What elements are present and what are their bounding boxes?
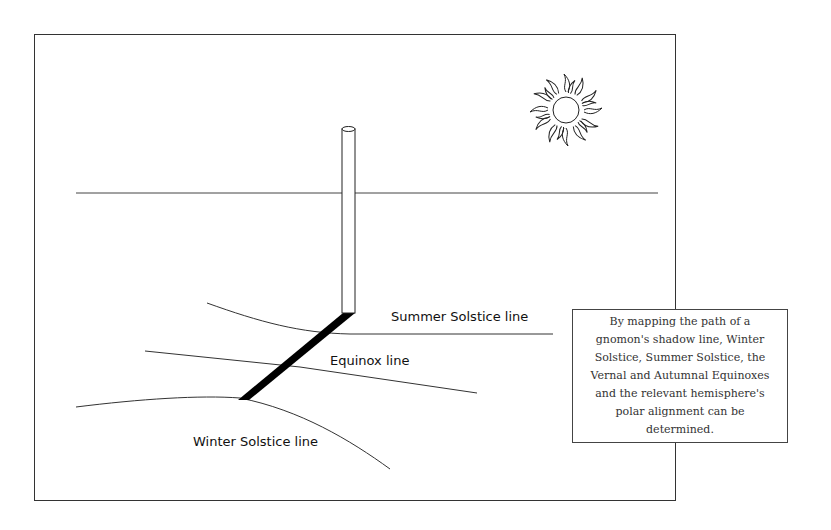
winter-solstice-label: Winter Solstice line [193, 434, 318, 449]
diagram-scene [0, 0, 831, 530]
sun-icon [530, 74, 602, 146]
summer-solstice-label: Summer Solstice line [391, 309, 528, 324]
explanation-note: By mapping the path of a gnomon's shadow… [572, 309, 788, 443]
gnomon [342, 127, 355, 314]
explanation-text: By mapping the path of a gnomon's shadow… [583, 313, 777, 439]
equinox-line [145, 351, 477, 393]
winter-solstice-line [76, 397, 390, 469]
equinox-label: Equinox line [330, 353, 409, 368]
